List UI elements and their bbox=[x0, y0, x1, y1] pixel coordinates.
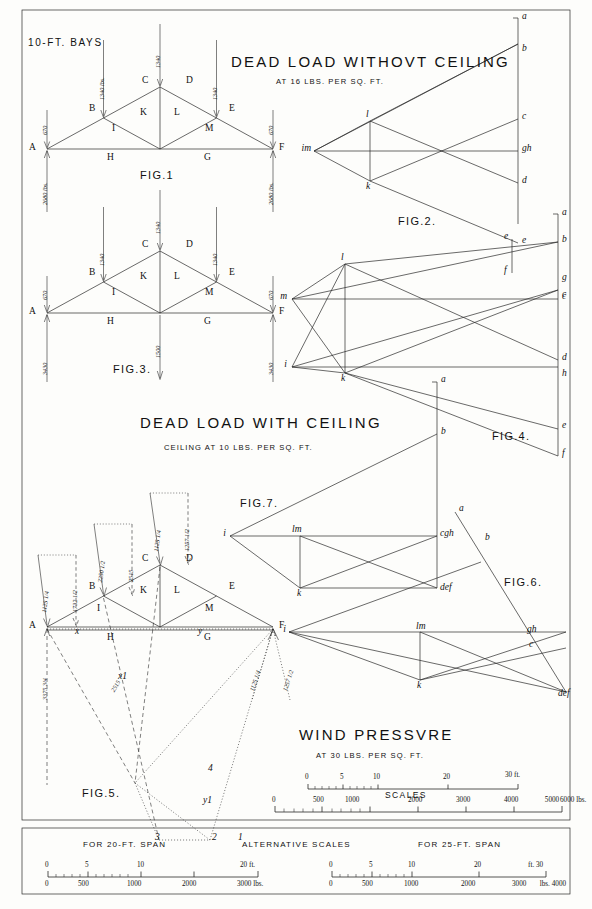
fig4-point-d: d bbox=[562, 353, 567, 363]
fig1-letter-G: G bbox=[204, 153, 211, 163]
fig7-point-def: def bbox=[440, 583, 452, 593]
fig3-letter-G: G bbox=[204, 317, 211, 327]
scale-lbs-tick-6000: 6000 lbs. bbox=[560, 797, 586, 804]
fig7-point-lm: lm bbox=[292, 525, 302, 535]
fig6-point-i: i bbox=[283, 625, 286, 635]
fig5-reaction-left: 3375 3/4 bbox=[42, 678, 48, 700]
fig2-point-im: im bbox=[302, 144, 312, 154]
scale-feet-tick-0: 0 bbox=[305, 774, 309, 781]
fig6-point-b: b bbox=[485, 533, 490, 543]
altscale-left-lbs-0: 0 bbox=[45, 881, 49, 888]
fig1-letter-B: B bbox=[89, 104, 95, 114]
fig5-letter-D: D bbox=[186, 554, 193, 564]
fig1-letter-I: I bbox=[112, 124, 115, 134]
fig5-truss bbox=[47, 565, 273, 630]
altscales-title: ALTERNATIVE SCALES bbox=[242, 841, 351, 849]
altscale-left-ft-5: 5 bbox=[85, 862, 89, 869]
altscale-right bbox=[332, 871, 546, 877]
fig5-letter-B: B bbox=[89, 582, 95, 592]
fig7-point-a: a bbox=[441, 375, 446, 385]
fig6-force-polygon bbox=[289, 512, 566, 692]
altscale-right-ft-20: 20 bbox=[474, 862, 481, 869]
fig5-load-apex-b: 1257 1/2 bbox=[184, 529, 190, 551]
fig3-letter-E: E bbox=[229, 268, 235, 278]
fig3-reaction-left: 3430 bbox=[42, 363, 48, 375]
fig4-point-i: i bbox=[284, 360, 287, 370]
fig4-point-m: m bbox=[280, 292, 287, 302]
fig7-point-cgh: cgh bbox=[440, 529, 454, 539]
scale-lbs-tick-3000: 3000 bbox=[456, 797, 470, 804]
altscale-left-title: FOR 20-FT. SPAN bbox=[83, 841, 166, 849]
caption-fig3: FIG.3. bbox=[113, 364, 151, 375]
fig1-letter-A: A bbox=[29, 143, 36, 153]
fig5-letter-E: E bbox=[229, 582, 235, 592]
fig3-letter-M: M bbox=[205, 288, 213, 298]
fig4-point-c-dup: c bbox=[562, 290, 566, 300]
bays-note: 10-FT. BAYS bbox=[28, 38, 103, 48]
fig3-letter-F: F bbox=[279, 307, 284, 317]
caption-fig1: FIG.1 bbox=[140, 170, 174, 181]
altscale-left-lbs-1000: 1000 bbox=[127, 881, 141, 888]
fig4-point-f: f bbox=[562, 449, 565, 459]
caption-fig4: FIG.4. bbox=[492, 431, 530, 442]
altscale-right-ft-0: 0 bbox=[329, 862, 333, 869]
altscale-right-lbs-2000: 2000 bbox=[461, 881, 475, 888]
fig5-letter-L: L bbox=[174, 586, 180, 596]
border-altscales bbox=[22, 828, 570, 894]
fig3-load-apex: 1340 bbox=[155, 222, 161, 234]
fig5-point-4: 4 bbox=[208, 764, 213, 774]
fig4-point-f-upper: f bbox=[504, 266, 507, 276]
fig2-point-e: e bbox=[522, 236, 526, 246]
title-dead-load-without-ceiling: DEAD LOAD WITHOVT CEILING bbox=[231, 54, 510, 69]
altscale-right-ft-30: ft. 30 bbox=[528, 862, 543, 869]
scale-lbs-tick-0: 0 bbox=[272, 797, 276, 804]
fig1-letter-E: E bbox=[229, 104, 235, 114]
fig3-reaction-right: 3430 bbox=[268, 363, 274, 375]
plate-linework bbox=[0, 0, 592, 909]
fig3-letter-K: K bbox=[140, 272, 147, 282]
fig4-point-b: b bbox=[562, 235, 567, 245]
fig3-letter-H: H bbox=[107, 317, 114, 327]
fig5-letter-x1: x1 bbox=[118, 672, 127, 682]
altscale-right-lbs-4000: lbs. 4000 bbox=[540, 881, 566, 888]
drawing-plate: 10-FT. BAYS DEAD LOAD WITHOVT CEILING AT… bbox=[0, 0, 592, 909]
caption-fig6: FIG.6. bbox=[504, 577, 542, 588]
fig1-reaction-left: 2680 lbs. bbox=[42, 182, 48, 205]
caption-fig7: FIG.7. bbox=[240, 498, 278, 509]
fig1-load-end-right: 670 bbox=[268, 126, 274, 135]
fig4-point-l: l bbox=[341, 253, 344, 263]
scale-lbs-tick-5000: 5000 bbox=[545, 797, 559, 804]
altscale-right-lbs-500: 500 bbox=[362, 881, 373, 888]
altscale-left-ft-0: 0 bbox=[45, 862, 49, 869]
title-wind-pressure: WIND PRESSVRE bbox=[299, 727, 453, 742]
fig5-letter-x: x bbox=[75, 627, 79, 637]
fig1-load-apex: 1340 bbox=[155, 56, 161, 68]
fig2-point-d: d bbox=[522, 176, 527, 186]
fig1-truss bbox=[47, 87, 273, 149]
fig1-letter-L: L bbox=[174, 108, 180, 118]
caption-fig2: FIG.2. bbox=[398, 216, 436, 227]
altscale-left-ft-20: 20 ft. bbox=[240, 862, 255, 869]
fig3-letter-L: L bbox=[174, 272, 180, 282]
fig1-reaction-right: 2680 lbs. bbox=[268, 182, 274, 205]
fig2-point-a: a bbox=[522, 12, 527, 22]
fig7-point-b: b bbox=[441, 427, 446, 437]
fig5-letter-A: A bbox=[29, 621, 36, 631]
scale-feet-tick-5: 5 bbox=[340, 774, 344, 781]
fig3-load-ceiling: 1500 bbox=[155, 346, 161, 358]
fig3-load-panel-left: 1340 bbox=[99, 254, 105, 266]
fig2-point-gh: gh bbox=[522, 144, 532, 154]
fig6-point-c: c bbox=[529, 640, 533, 650]
fig3-load-end-right: 670 bbox=[268, 291, 274, 300]
scale-lbs-tick-500: 500 bbox=[313, 797, 324, 804]
fig1-letter-H: H bbox=[107, 153, 114, 163]
scale-pounds bbox=[275, 806, 562, 812]
fig5-load-panel-left-b: 2515 bbox=[128, 570, 134, 582]
fig6-point-a: a bbox=[459, 504, 464, 514]
fig7-force-polygon bbox=[230, 382, 437, 588]
fig2-point-l: l bbox=[366, 110, 369, 120]
fig3-load-panel-right: 1340 bbox=[212, 254, 218, 266]
fig1-letter-M: M bbox=[205, 124, 213, 134]
fig5-load-end-left-b: 1732 1/2 bbox=[72, 590, 78, 612]
scale-feet-tick-10: 10 bbox=[373, 774, 380, 781]
